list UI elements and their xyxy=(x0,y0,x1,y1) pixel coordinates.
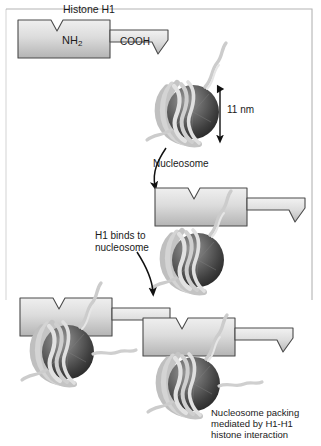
label-nh2-terminus: NH2 xyxy=(62,34,82,48)
diagram-title: Histone H1 xyxy=(63,3,115,15)
diagram-canvas: Histone H1 NH2 COOH 11 nm Nucleosome H1 … xyxy=(0,0,321,446)
histone-h1-nucleosome-diagram xyxy=(0,0,321,446)
label-size-11nm: 11 nm xyxy=(227,104,254,116)
nh2-subscript: 2 xyxy=(78,39,82,48)
nh2-text: NH xyxy=(62,34,78,46)
nucleosome-top xyxy=(147,43,226,144)
label-h1-binds-to-nucleosome: H1 binds to nucleosome xyxy=(95,230,149,254)
arrow-h1-binds xyxy=(137,252,153,292)
label-cooh-terminus: COOH xyxy=(120,36,150,48)
caption-nucleosome-packing: Nucleosome packing mediated by H1-H1 his… xyxy=(211,407,299,441)
label-nucleosome: Nucleosome xyxy=(153,158,209,170)
